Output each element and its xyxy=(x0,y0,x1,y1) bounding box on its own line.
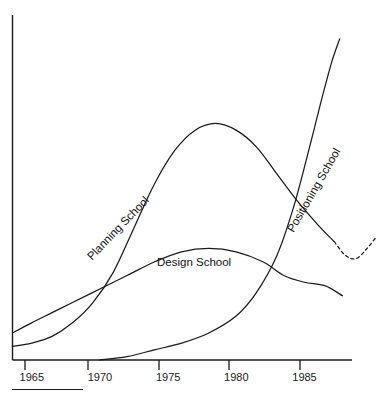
xtick-label-1965: 1965 xyxy=(20,371,44,383)
data-series-group xyxy=(13,39,376,360)
series-label-design-school: Design School xyxy=(157,256,231,268)
xtick-label-1975: 1975 xyxy=(156,371,180,383)
xtick-label-1985: 1985 xyxy=(292,371,316,383)
chart-figure: 1965 1970 1975 1980 1985 Planning School… xyxy=(0,0,377,398)
axes-group xyxy=(13,15,353,370)
footnote-rule xyxy=(12,389,83,390)
series-line-planning-school-projected xyxy=(334,238,375,259)
chart-plot-area xyxy=(0,0,377,398)
xtick-label-1980: 1980 xyxy=(224,371,248,383)
series-line-planning-school xyxy=(13,123,335,346)
x-axis-ticks xyxy=(25,360,300,370)
xtick-label-1970: 1970 xyxy=(88,371,112,383)
